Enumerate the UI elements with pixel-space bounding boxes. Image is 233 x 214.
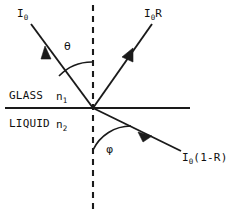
incident-ray-label-base: I [17, 7, 24, 20]
upper-medium-label: GLASS [9, 90, 43, 101]
refracted-ray-label: I0(1-R) [182, 152, 227, 166]
optics-diagram: I0 I0R θ GLASS n1 LIQUID n2 φ I0(1-R) [0, 0, 233, 214]
lower-refractive-index-label: n2 [56, 119, 67, 133]
refraction-angle-label: φ [106, 144, 113, 155]
upper-refractive-index-label: n1 [56, 91, 67, 105]
incident-ray-label-sub: 0 [24, 13, 29, 22]
refracted-ray-label-tail: (1-R) [193, 151, 227, 164]
incident-ray-label: I0 [17, 8, 28, 22]
lower-medium-label: LIQUID [9, 118, 50, 129]
reflected-ray-line [93, 24, 152, 108]
reflected-ray-label-tail: R [155, 7, 162, 20]
refracted-ray-label-base: I [182, 151, 189, 164]
upper-refractive-index-sub: 1 [63, 96, 68, 105]
reflected-ray-label: I0R [144, 8, 162, 22]
incidence-angle-label: θ [64, 41, 71, 52]
lower-refractive-index-base: n [56, 118, 63, 131]
upper-refractive-index-base: n [56, 90, 63, 103]
diagram-canvas [0, 0, 233, 214]
reflected-ray-label-base: I [144, 7, 151, 20]
lower-refractive-index-sub: 2 [63, 124, 68, 133]
